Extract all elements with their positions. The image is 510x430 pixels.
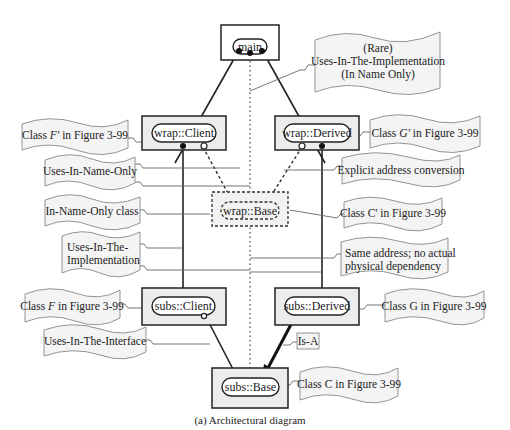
svg-text:Uses-In-The-: Uses-In-The- <box>67 241 128 253</box>
component-subs-client-label: subs::Client <box>155 299 213 313</box>
component-wrap-base[interactable]: wrap::Base <box>212 192 288 226</box>
uses-name-only-circle-icon <box>299 143 305 149</box>
svg-text:(Rare): (Rare) <box>363 42 393 55</box>
note-rare-uses-in-the-implementation: (Rare) Uses-In-The-Implementation (In Na… <box>311 32 445 95</box>
svg-text:Class C' in Figure 3-99: Class C' in Figure 3-99 <box>340 207 446 220</box>
note-class-f-prime: Class F' in Figure 3-99 <box>22 119 128 155</box>
component-subs-client[interactable]: subs::Client <box>142 288 226 325</box>
component-wrap-derived-label: wrap::Derived <box>282 126 351 140</box>
component-subs-base[interactable]: subs::Base <box>212 368 288 408</box>
uses-dot-icon <box>236 48 242 54</box>
note-class-c-prime: Class C' in Figure 3-99 <box>340 197 446 231</box>
svg-text:(In Name Only): (In Name Only) <box>341 68 415 81</box>
note-class-g: Class G in Figure 3-99 <box>382 289 487 325</box>
svg-text:Class G' in Figure 3-99: Class G' in Figure 3-99 <box>371 127 478 140</box>
uses-dot-icon <box>180 143 186 149</box>
svg-text:Same address; no actual: Same address; no actual <box>345 247 456 259</box>
note-uses-in-name-only: Uses-In-Name-Only <box>43 155 137 190</box>
component-main[interactable]: main <box>221 25 279 60</box>
note-class-g-prime: Class G' in Figure 3-99 <box>370 115 480 153</box>
svg-text:In-Name-Only class: In-Name-Only class <box>46 205 139 218</box>
note-uses-in-the-implementation: Uses-In-The- Implementation <box>62 232 140 277</box>
uses-interface-circle-icon <box>201 313 206 318</box>
component-wrap-client-label: wrap::Client <box>154 126 215 140</box>
note-class-c: Class C in Figure 3-99 <box>297 367 401 403</box>
component-wrap-client[interactable]: wrap::Client <box>142 116 226 150</box>
svg-text:Class F in Figure 3-99: Class F in Figure 3-99 <box>20 300 124 313</box>
uses-name-only-circle-icon <box>201 143 207 149</box>
architectural-diagram: main wrap::Client wrap::Derived wrap::Ba… <box>0 0 510 430</box>
note-class-f: Class F in Figure 3-99 <box>20 289 124 325</box>
svg-text:Uses-In-The-Interface: Uses-In-The-Interface <box>44 335 146 347</box>
component-wrap-derived[interactable]: wrap::Derived <box>275 116 359 150</box>
svg-text:Uses-In-Name-Only: Uses-In-Name-Only <box>43 165 137 178</box>
component-subs-base-label: subs::Base <box>225 380 276 394</box>
svg-text:Implementation: Implementation <box>67 254 140 267</box>
svg-text:Is-A: Is-A <box>298 335 319 347</box>
svg-text:Uses-In-The-Implementation: Uses-In-The-Implementation <box>311 55 445 68</box>
component-subs-derived-label: subs::Derived <box>284 299 351 313</box>
uses-dot-icon <box>319 143 325 149</box>
component-subs-derived[interactable]: subs::Derived <box>275 288 359 325</box>
component-wrap-base-label: wrap::Base <box>223 204 277 218</box>
uses-dot-icon <box>247 50 253 56</box>
note-explicit-address-conversion: Explicit address conversion <box>337 153 464 187</box>
note-is-a: Is-A <box>297 333 319 349</box>
svg-text:Class C in Figure 3-99: Class C in Figure 3-99 <box>297 378 401 391</box>
note-in-name-only-class: In-Name-Only class <box>45 195 140 230</box>
figure-caption: (a) Architectural diagram <box>194 414 306 427</box>
note-same-address: Same address; no actual physical depende… <box>341 237 456 279</box>
svg-text:physical dependency: physical dependency <box>345 260 441 273</box>
svg-text:Class G in Figure 3-99: Class G in Figure 3-99 <box>382 300 487 313</box>
svg-text:Explicit address conversion: Explicit address conversion <box>337 164 464 177</box>
uses-dot-icon <box>259 48 265 54</box>
note-uses-in-the-interface: Uses-In-The-Interface <box>44 325 146 359</box>
svg-text:Class F' in Figure 3-99: Class F' in Figure 3-99 <box>22 129 128 142</box>
